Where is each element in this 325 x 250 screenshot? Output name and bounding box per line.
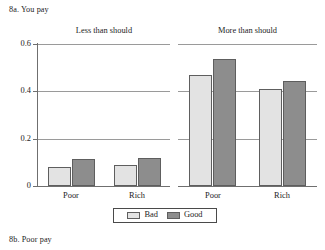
- x-axis-line-panel-1: [38, 186, 170, 187]
- bar-more-poor-bad[interactable]: [189, 75, 212, 186]
- legend-label-bad: Bad: [144, 211, 158, 219]
- y-axis-tick-mark: [33, 186, 37, 187]
- bar-less-poor-bad[interactable]: [48, 167, 71, 186]
- bar-less-rich-good[interactable]: [138, 158, 161, 186]
- x-axis-label-rich-panel-1: Rich: [107, 191, 167, 200]
- legend-entry-good[interactable]: Good: [167, 211, 203, 219]
- figure-8a-you-pay: 8a. You pay 00.20.40.6Less than shouldPo…: [0, 0, 325, 250]
- gridline-0.6-panel-2: [178, 44, 317, 45]
- legend-entry-bad[interactable]: Bad: [127, 211, 158, 219]
- y-axis-tick-label: 0.6: [9, 39, 31, 48]
- legend-label-good: Good: [184, 211, 203, 219]
- y-axis-tick-label: 0.2: [9, 134, 31, 143]
- x-axis-line-panel-2: [178, 186, 317, 187]
- gridline-0.6-panel-1: [38, 44, 170, 45]
- chart-legend: BadGood: [113, 208, 217, 223]
- panel-title-1: Less than should: [38, 26, 170, 35]
- gridline-0.4-panel-1: [38, 91, 170, 92]
- legend-swatch-bad-icon: [127, 212, 140, 219]
- y-axis-line: [37, 43, 38, 187]
- panel-title-2: More than should: [178, 26, 317, 35]
- gridline-0.2-panel-1: [38, 139, 170, 140]
- y-axis-tick-mark: [33, 44, 37, 45]
- bar-less-poor-good[interactable]: [72, 159, 95, 186]
- bar-more-rich-bad[interactable]: [259, 89, 282, 186]
- x-axis-label-rich-panel-2: Rich: [252, 191, 312, 200]
- figure-caption-bottom: 8b. Poor pay: [9, 235, 52, 244]
- x-axis-label-poor-panel-2: Poor: [183, 191, 243, 200]
- bar-chart: 00.20.40.6Less than shouldPoorRichMore t…: [0, 0, 325, 250]
- y-axis-tick-mark: [33, 139, 37, 140]
- y-axis-tick-label: 0: [9, 181, 31, 190]
- legend-swatch-good-icon: [167, 212, 180, 219]
- y-axis-tick-mark: [33, 91, 37, 92]
- x-axis-label-poor-panel-1: Poor: [41, 191, 101, 200]
- bar-less-rich-bad[interactable]: [114, 165, 137, 186]
- bar-more-poor-good[interactable]: [213, 59, 236, 186]
- bar-more-rich-good[interactable]: [283, 81, 306, 186]
- y-axis-tick-label: 0.4: [9, 86, 31, 95]
